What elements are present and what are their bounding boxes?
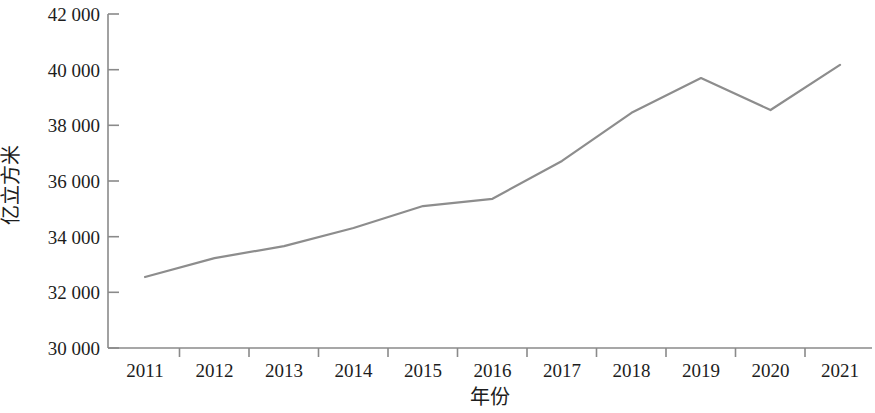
chart-background bbox=[0, 0, 875, 413]
x-tick-label: 2012 bbox=[196, 360, 234, 381]
x-tick-label: 2013 bbox=[265, 360, 303, 381]
x-tick-label: 2016 bbox=[474, 360, 512, 381]
x-tick-label: 2021 bbox=[821, 360, 859, 381]
line-chart: 42 000 40 000 38 000 36 000 34 000 32 00… bbox=[0, 0, 875, 413]
y-tick-label: 34 000 bbox=[48, 227, 100, 248]
y-tick-label: 30 000 bbox=[48, 338, 100, 359]
y-tick-label: 36 000 bbox=[48, 171, 100, 192]
x-axis-title: 年份 bbox=[470, 386, 510, 408]
y-tick-label: 42 000 bbox=[48, 4, 100, 25]
chart-page: 42 000 40 000 38 000 36 000 34 000 32 00… bbox=[0, 0, 875, 413]
x-tick-label: 2015 bbox=[404, 360, 442, 381]
y-tick-label: 40 000 bbox=[48, 60, 100, 81]
y-tick-label: 32 000 bbox=[48, 282, 100, 303]
y-tick-label: 38 000 bbox=[48, 115, 100, 136]
x-tick-label: 2017 bbox=[543, 360, 581, 381]
x-tick-label: 2014 bbox=[335, 360, 374, 381]
y-axis-title: 亿立方米 bbox=[0, 145, 22, 225]
x-tick-label: 2011 bbox=[126, 360, 163, 381]
x-tick-label: 2018 bbox=[613, 360, 651, 381]
x-tick-label: 2020 bbox=[752, 360, 790, 381]
x-tick-label: 2019 bbox=[682, 360, 720, 381]
